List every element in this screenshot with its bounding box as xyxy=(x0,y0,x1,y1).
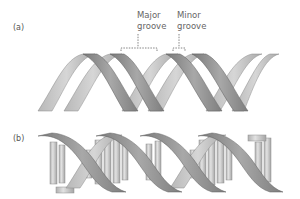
helix-drawing xyxy=(0,0,300,199)
groove-brackets xyxy=(121,34,185,51)
panel-b-helix xyxy=(38,133,283,193)
panel-a-helix xyxy=(38,54,279,111)
